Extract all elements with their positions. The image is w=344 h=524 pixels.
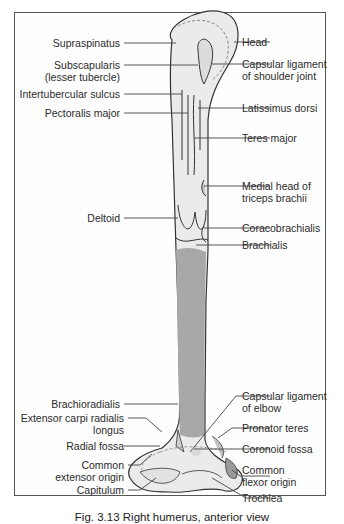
label-longus: longus xyxy=(93,424,124,436)
label-supraspinatus: Supraspinatus xyxy=(53,37,120,49)
label-pectoralis-major: Pectoralis major xyxy=(45,107,120,119)
label-extensor-carpi-radialis: Extensor carpi radialis xyxy=(21,412,124,424)
label-capsular-ligament-shoulder: Capsular ligament xyxy=(242,58,327,70)
label-medial-head: Medial head of xyxy=(242,180,311,192)
label-radial-fossa: Radial fossa xyxy=(66,440,124,452)
label-triceps-brachii: triceps brachii xyxy=(242,192,307,204)
label-common-flexor: Common xyxy=(242,464,285,476)
label-brachioradialis: Brachioradialis xyxy=(51,398,120,410)
label-pronator-teres: Pronator teres xyxy=(242,422,309,434)
label-capitulum: Capitulum xyxy=(77,484,124,496)
label-lesser-tubercle: (lesser tubercle) xyxy=(45,71,120,83)
label-common-extensor: Common xyxy=(81,459,124,471)
label-coronoid-fossa: Coronoid fossa xyxy=(242,443,313,455)
label-of-elbow: of elbow xyxy=(242,402,281,414)
label-teres-major: Teres major xyxy=(242,132,297,144)
label-subscapularis: Subscapularis xyxy=(54,59,120,71)
label-capsular-ligament-elbow: Capsular ligament xyxy=(242,390,327,402)
label-flexor-origin: flexor origin xyxy=(242,476,296,488)
label-trochlea: Trochlea xyxy=(242,492,282,504)
label-extensor-origin: extensor origin xyxy=(55,471,124,483)
figure-caption: Fig. 3.13 Right humerus, anterior view xyxy=(0,511,344,523)
label-of-shoulder-joint: of shoulder joint xyxy=(242,70,316,82)
label-intertubercular-sulcus: Intertubercular sulcus xyxy=(20,88,120,100)
label-brachialis: Brachialis xyxy=(242,239,288,251)
label-latissimus-dorsi: Latissimus dorsi xyxy=(242,102,317,114)
label-deltoid: Deltoid xyxy=(87,212,120,224)
label-head: Head xyxy=(242,36,267,48)
label-coracobrachialis: Coracobrachialis xyxy=(242,222,320,234)
